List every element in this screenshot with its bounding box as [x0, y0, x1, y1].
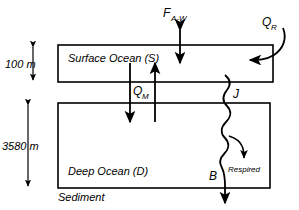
deep-depth-label: 3580 m [2, 140, 39, 152]
mixing-flux-subscript: M [142, 92, 149, 101]
export-flux-label: J [232, 87, 240, 101]
deep-ocean-label: Deep Ocean (D) [68, 165, 148, 177]
river-flux-label: Q R [262, 15, 277, 32]
burial-flux-label: B [209, 169, 217, 183]
river-flux-symbol: Q [262, 15, 271, 29]
respired-label: Respired [228, 165, 261, 174]
air-water-flux-symbol: F [163, 6, 171, 20]
river-flux-subscript: R [271, 23, 277, 32]
surface-depth-label: 100 m [5, 58, 36, 70]
mixing-flux-symbol: Q [133, 84, 142, 98]
sediment-label: Sediment [58, 191, 105, 203]
mixing-flux-label: Q M [133, 84, 149, 101]
surface-ocean-label: Surface Ocean (S) [68, 52, 159, 64]
ocean-box-model-diagram: 100 m 3580 m Surface Ocean (S) Deep Ocea… [0, 0, 299, 210]
air-water-flux-label: F A-W [163, 6, 188, 23]
air-water-flux-subscript: A-W [170, 14, 188, 23]
diagram-canvas: 100 m 3580 m Surface Ocean (S) Deep Ocea… [0, 0, 299, 210]
